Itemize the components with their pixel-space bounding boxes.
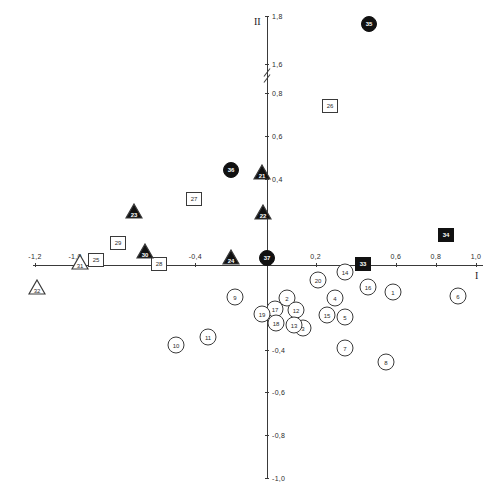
data-point-14[interactable]: 14: [337, 264, 354, 281]
y-tick-mark: [265, 136, 269, 137]
marker-label: 23: [125, 212, 143, 218]
x-axis-label: I: [475, 270, 478, 281]
y-tick-label: -0,6: [272, 389, 285, 396]
data-point-6[interactable]: 6: [450, 288, 467, 305]
data-point-36[interactable]: 36: [223, 162, 239, 178]
data-point-28[interactable]: 28: [151, 257, 167, 271]
data-point-21[interactable]: 21: [253, 164, 271, 180]
x-tick-label: -1,2: [28, 253, 41, 260]
data-point-10[interactable]: 10: [168, 337, 185, 354]
x-tick-label: 0,6: [390, 253, 401, 260]
x-tick-mark: [436, 263, 437, 267]
data-point-31[interactable]: 31: [71, 254, 89, 270]
data-point-26[interactable]: 26: [322, 99, 338, 113]
data-point-32[interactable]: 32: [28, 279, 46, 295]
data-point-15[interactable]: 15: [319, 307, 336, 324]
data-point-4[interactable]: 4: [327, 290, 344, 307]
y-tick-label: 0,6: [272, 132, 283, 139]
marker-label: 21: [253, 173, 271, 179]
y-tick-label: 1,8: [272, 13, 283, 20]
y-tick-mark: [265, 93, 269, 94]
data-point-22[interactable]: 22: [254, 204, 272, 220]
marker-label: 22: [254, 213, 272, 219]
marker-label: 30: [136, 252, 154, 258]
x-tick-mark: [316, 263, 317, 267]
data-point-33[interactable]: 33: [355, 257, 371, 271]
data-point-24[interactable]: 24: [222, 249, 240, 265]
data-point-11[interactable]: 11: [200, 329, 217, 346]
y-tick-label: 0,8: [272, 90, 283, 97]
y-tick-mark: [265, 64, 269, 65]
y-axis-label: II: [254, 16, 261, 27]
scatter-plot: -1,2-1,0-0,40,20,60,81,0 1,81,60,80,60,4…: [0, 0, 497, 492]
data-point-30[interactable]: 30: [136, 243, 154, 259]
data-point-23[interactable]: 23: [125, 203, 143, 219]
data-point-18[interactable]: 18: [268, 315, 285, 332]
x-tick-label: -0,4: [189, 253, 202, 260]
y-tick-label: -1,0: [272, 475, 285, 482]
x-tick-label: 1,0: [471, 253, 482, 260]
y-tick-mark: [265, 16, 269, 17]
data-point-5[interactable]: 5: [337, 309, 354, 326]
y-tick-label: 1,6: [272, 61, 283, 68]
data-point-8[interactable]: 8: [378, 354, 395, 371]
data-point-34[interactable]: 34: [438, 228, 454, 242]
x-tick-mark: [35, 263, 36, 267]
x-tick-label: 0,8: [431, 253, 442, 260]
y-tick-mark: [265, 435, 269, 436]
marker-label: 32: [28, 288, 46, 294]
data-point-27[interactable]: 27: [186, 192, 202, 206]
data-point-13[interactable]: 13: [286, 317, 303, 334]
y-tick-label: -0,8: [272, 432, 285, 439]
x-tick-mark: [396, 263, 397, 267]
data-point-29[interactable]: 29: [110, 236, 126, 250]
data-point-7[interactable]: 7: [337, 340, 354, 357]
y-tick-label: 0,4: [272, 175, 283, 182]
y-axis-line: [267, 16, 268, 478]
data-point-35[interactable]: 35: [361, 16, 377, 32]
x-tick-label: 0,2: [310, 253, 321, 260]
y-tick-mark: [265, 350, 269, 351]
data-point-25[interactable]: 25: [88, 253, 104, 267]
y-tick-mark: [265, 392, 269, 393]
data-point-9[interactable]: 9: [227, 289, 244, 306]
data-point-20[interactable]: 20: [310, 272, 327, 289]
data-point-37[interactable]: 37: [259, 250, 275, 266]
x-tick-mark: [195, 263, 196, 267]
data-point-16[interactable]: 16: [360, 279, 377, 296]
y-tick-label: -0,4: [272, 346, 285, 353]
data-point-19[interactable]: 19: [254, 306, 271, 323]
x-tick-mark: [476, 263, 477, 267]
marker-label: 31: [71, 263, 89, 269]
data-point-1[interactable]: 1: [385, 284, 402, 301]
y-tick-mark: [265, 478, 269, 479]
marker-label: 24: [222, 258, 240, 264]
